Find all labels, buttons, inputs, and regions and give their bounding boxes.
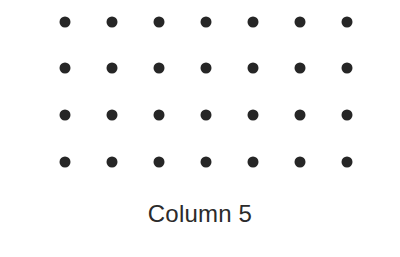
data-point (107, 63, 118, 74)
dot-grid (0, 0, 400, 195)
data-point (154, 17, 165, 28)
data-point (201, 157, 212, 168)
data-point (342, 63, 353, 74)
data-point (154, 110, 165, 121)
data-point (60, 63, 71, 74)
data-point (60, 17, 71, 28)
data-point (342, 17, 353, 28)
data-point (201, 63, 212, 74)
data-point (201, 17, 212, 28)
data-point (248, 110, 259, 121)
data-point (248, 157, 259, 168)
data-point (295, 157, 306, 168)
data-point (60, 110, 71, 121)
column-label: Column 5 (0, 200, 400, 228)
data-point (295, 110, 306, 121)
data-point (342, 110, 353, 121)
data-point (107, 17, 118, 28)
data-point (107, 157, 118, 168)
data-point (295, 63, 306, 74)
data-point (248, 63, 259, 74)
data-point (248, 17, 259, 28)
data-point (342, 157, 353, 168)
data-point (154, 63, 165, 74)
data-point (107, 110, 118, 121)
data-point (201, 110, 212, 121)
data-point (295, 17, 306, 28)
dot-grid-figure: Column 5 (0, 0, 400, 257)
data-point (60, 157, 71, 168)
data-point (154, 157, 165, 168)
